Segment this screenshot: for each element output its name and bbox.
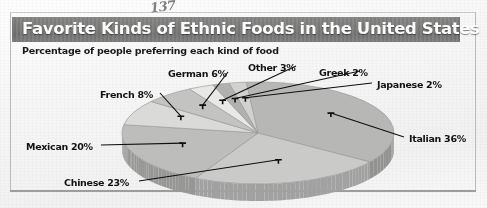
pie-label-italian: Italian 36%	[409, 133, 466, 144]
pie-label-greek: Greek 2%	[319, 67, 368, 78]
pie-top-surface-layer	[122, 82, 394, 184]
pie-label-french: French 8%	[100, 89, 153, 100]
pie-label-other: Other 3%	[248, 62, 296, 73]
pie-label-japanese: Japanese 2%	[377, 79, 442, 90]
figure-container: 137 Favorite Kinds of Ethnic Foods in th…	[0, 0, 487, 208]
pie-label-chinese: Chinese 23%	[64, 177, 129, 188]
pie-label-mexican: Mexican 20%	[26, 141, 93, 152]
pie-label-german: German 6%	[168, 68, 227, 79]
